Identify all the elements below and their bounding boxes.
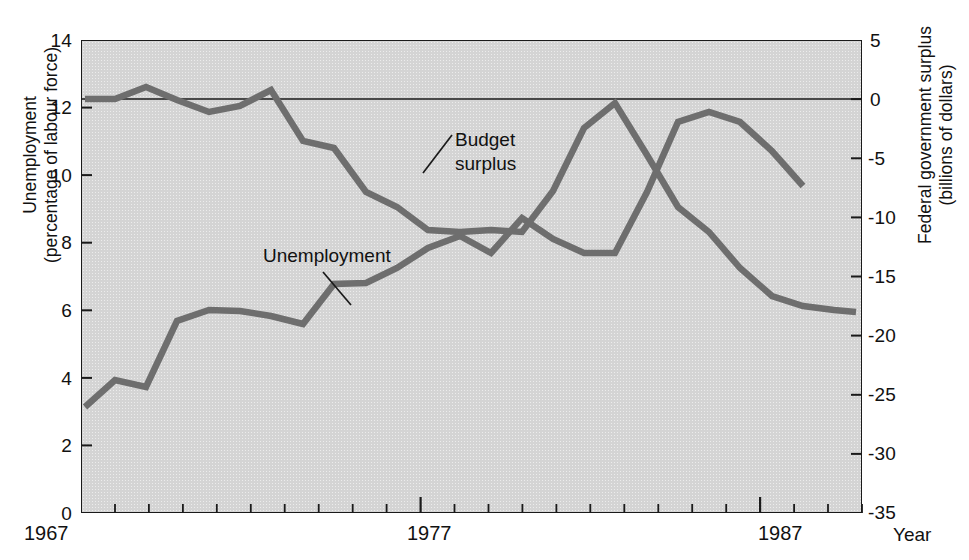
right-axis-ticks xyxy=(851,99,862,454)
budget-surplus-leader-line xyxy=(423,135,452,173)
x-axis-ticks xyxy=(115,497,862,513)
chart-vector-layer xyxy=(0,0,969,560)
unemployment-series-line xyxy=(85,112,803,407)
chart-figure: Unemployment (percentage of labour force… xyxy=(0,0,969,560)
left-axis-ticks xyxy=(81,108,92,446)
